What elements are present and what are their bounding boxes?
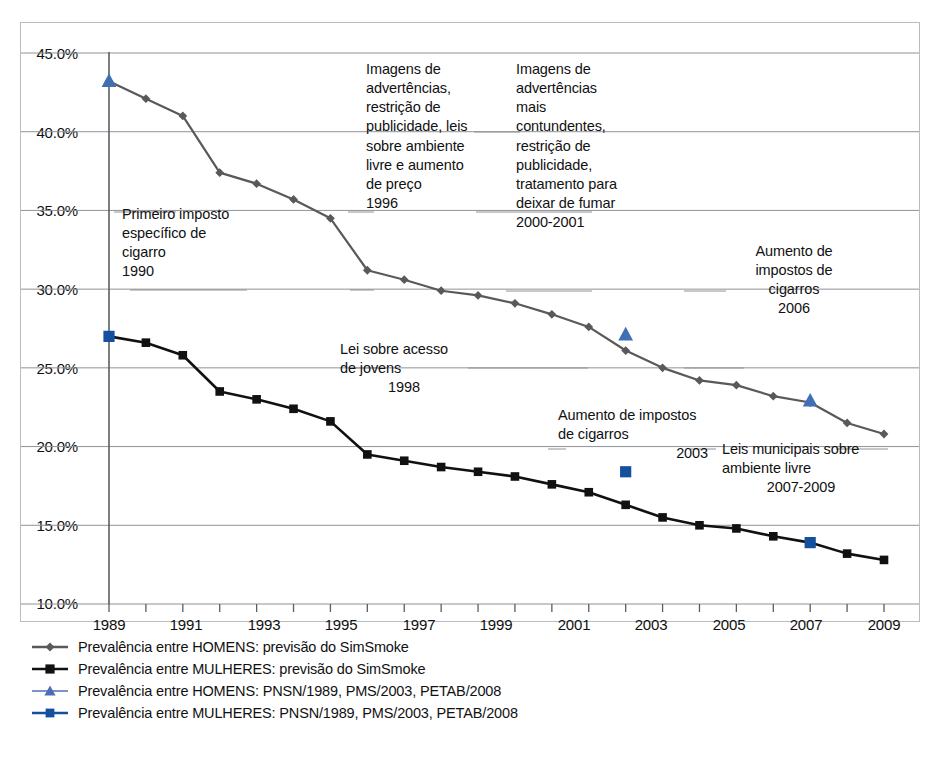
annotation-line: cigarros bbox=[769, 281, 820, 297]
square-marker-icon bbox=[30, 661, 70, 677]
annotation-year: 1998 bbox=[340, 378, 468, 397]
chart-legend: Prevalência entre HOMENS: previsão do Si… bbox=[30, 636, 518, 724]
annotation-line: de jovens bbox=[340, 360, 401, 376]
annotation-1998: Lei sobre acesso de jovens 1998 bbox=[340, 340, 468, 397]
annotation-year: 2007-2009 bbox=[722, 478, 880, 497]
annotation-line: advertências bbox=[516, 80, 597, 96]
annotation-2007-2009: Leis municipais sobre ambiente livre 200… bbox=[722, 440, 880, 497]
annotation-line: de cigarros bbox=[558, 426, 629, 442]
annotation-line: advertências, bbox=[366, 80, 451, 96]
square-marker-icon bbox=[30, 705, 70, 721]
annotation-line: contundentes, bbox=[516, 118, 606, 134]
annotation-line: deixar de fumar bbox=[516, 195, 615, 211]
annotation-line: ambiente livre bbox=[722, 460, 811, 476]
legend-label: Prevalência entre HOMENS: previsão do Si… bbox=[78, 639, 409, 655]
legend-label: Prevalência entre HOMENS: PNSN/1989, PMS… bbox=[78, 683, 501, 699]
annotation-year: 2006 bbox=[742, 299, 846, 318]
annotation-line: Aumento de impostos bbox=[558, 407, 696, 423]
chart-page: 45.0% 40.0% 35.0% 30.0% 25.0% 20.0% 15.0… bbox=[0, 0, 940, 764]
annotation-year: 1990 bbox=[122, 262, 252, 281]
diamond-marker-icon bbox=[30, 639, 70, 655]
annotation-1990: Primeiro imposto específico de cigarro 1… bbox=[122, 205, 252, 282]
annotation-line: mais bbox=[516, 99, 546, 115]
annotation-line: cigarro bbox=[122, 244, 166, 260]
annotation-line: Primeiro imposto bbox=[122, 206, 229, 222]
annotation-1996: Imagens de advertências, restrição de pu… bbox=[366, 60, 478, 213]
annotation-line: impostos de bbox=[755, 262, 832, 278]
annotation-year: 2003 bbox=[558, 444, 708, 463]
annotation-2000-2001: Imagens de advertências mais contundente… bbox=[516, 60, 634, 232]
legend-item-men-survey[interactable]: Prevalência entre HOMENS: PNSN/1989, PMS… bbox=[30, 680, 518, 702]
annotation-year: 2000-2001 bbox=[516, 213, 634, 232]
annotation-line: Imagens de bbox=[516, 61, 591, 77]
legend-item-women-simsmoke[interactable]: Prevalência entre MULHERES: previsão do … bbox=[30, 658, 518, 680]
annotation-2006: Aumento de impostos de cigarros 2006 bbox=[742, 242, 846, 319]
annotation-2003: Aumento de impostos de cigarros 2003 bbox=[558, 406, 708, 463]
x-axis-ticks bbox=[109, 604, 884, 612]
annotation-line: livre e aumento bbox=[366, 157, 464, 173]
annotation-line: publicidade, bbox=[516, 157, 592, 173]
annotation-line: sobre ambiente bbox=[366, 138, 465, 154]
annotation-line: publicidade, leis bbox=[366, 118, 467, 134]
annotation-line: Aumento de bbox=[755, 243, 832, 259]
annotation-line: Imagens de bbox=[366, 61, 441, 77]
legend-label: Prevalência entre MULHERES: previsão do … bbox=[78, 661, 425, 677]
legend-item-women-survey[interactable]: Prevalência entre MULHERES: PNSN/1989, P… bbox=[30, 702, 518, 724]
legend-item-men-simsmoke[interactable]: Prevalência entre HOMENS: previsão do Si… bbox=[30, 636, 518, 658]
annotation-line: tratamento para bbox=[516, 176, 617, 192]
annotation-year: 1996 bbox=[366, 194, 478, 213]
annotation-line: específico de bbox=[122, 225, 206, 241]
annotation-line: restrição de bbox=[516, 138, 591, 154]
annotation-line: restrição de bbox=[366, 99, 441, 115]
triangle-marker-icon bbox=[30, 683, 70, 699]
annotation-line: Leis municipais sobre bbox=[722, 441, 859, 457]
legend-label: Prevalência entre MULHERES: PNSN/1989, P… bbox=[78, 705, 518, 721]
annotation-line: de preço bbox=[366, 176, 422, 192]
annotation-line: Lei sobre acesso bbox=[340, 341, 448, 357]
